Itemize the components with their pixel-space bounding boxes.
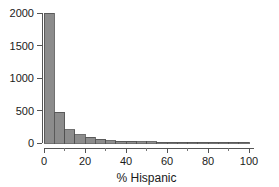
x-tick-label: 100 [240,155,258,167]
histogram-bars [44,13,249,143]
x-tick-label: 20 [79,155,91,167]
histogram-bar [188,142,198,143]
histogram-bar [126,141,136,143]
histogram-bar [136,142,146,143]
histogram-bar [95,139,105,143]
histogram-bar [85,137,95,143]
y-tick-label: 2000 [10,7,34,19]
y-tick-label: 1000 [10,72,34,84]
histogram-figure: 0500100015002000020406080100% Hispanic %… [0,0,279,187]
histogram-bar [106,141,116,143]
histogram-bar [75,135,85,143]
y-tick-label: 0 [28,137,34,149]
histogram-bar [157,142,167,143]
x-tick-label: 60 [161,155,173,167]
histogram-bar [218,142,228,143]
histogram-bar [198,142,208,143]
x-tick-label: 40 [120,155,132,167]
histogram-bar [116,141,126,143]
x-tick-label: 0 [41,155,47,167]
histogram-bar [167,142,177,143]
histogram-bar [229,142,239,143]
histogram-bar [208,142,218,143]
x-axis-title: % Hispanic [116,171,176,185]
histogram-bar [44,13,54,143]
histogram-bar [147,142,157,143]
histogram-bar [65,130,75,143]
histogram-plot: 0500100015002000020406080100% Hispanic [0,0,279,187]
y-tick-label: 1500 [10,40,34,52]
histogram-bar [54,112,64,143]
histogram-bar [239,142,249,143]
x-tick-label: 80 [202,155,214,167]
y-tick-label: 500 [16,105,34,117]
histogram-bar [177,142,187,143]
